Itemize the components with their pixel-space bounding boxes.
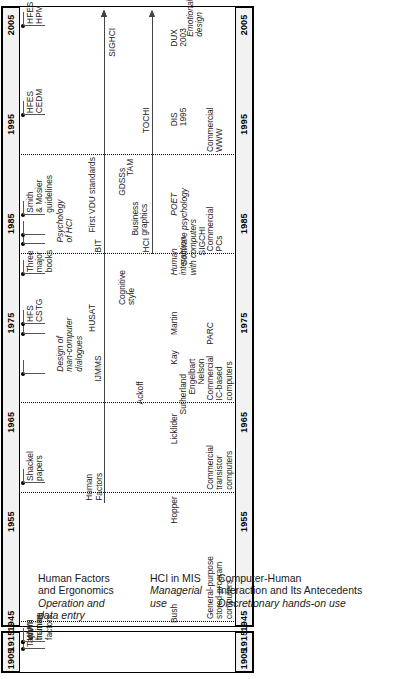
lane-titles: Human Factors and ErgonomicsOperation an… [0,0,406,679]
lane-subtitle-text: Discretionary hands-on use [218,597,388,609]
lane-title-chi: Computer-Human Interaction and Its Antec… [218,572,388,609]
lane-title-text: Computer-Human Interaction and Its Antec… [218,572,388,597]
